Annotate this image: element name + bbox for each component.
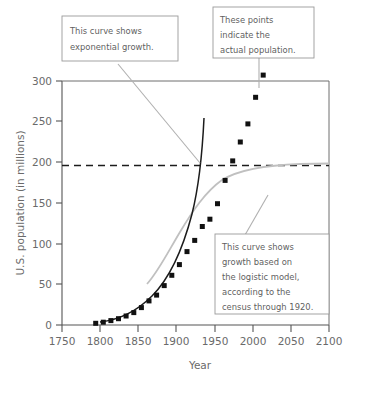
exponential-callout-line-2: exponential growth. xyxy=(70,42,154,52)
y-tick-label-250: 250 xyxy=(32,115,52,127)
y-tick-label-150: 150 xyxy=(32,197,52,209)
y-tick-label-50: 50 xyxy=(39,278,52,290)
data-point xyxy=(207,217,212,222)
data-point xyxy=(253,95,258,100)
data-point xyxy=(245,121,250,126)
data-point xyxy=(223,178,228,183)
data-point xyxy=(162,283,167,288)
logistic-callout-line-5: census through 1920. xyxy=(222,302,313,312)
points-callout-line-3: actual population. xyxy=(220,45,296,55)
exponential-callout-line-1: This curve shows xyxy=(69,26,142,36)
data-point xyxy=(238,140,243,145)
x-tick-label-2100: 2100 xyxy=(316,335,343,347)
data-point xyxy=(200,224,205,229)
points-callout-line-2: indicate the xyxy=(220,30,270,40)
data-point xyxy=(116,316,121,321)
x-tick-label-1950: 1950 xyxy=(202,335,229,347)
x-tick-label-1850: 1850 xyxy=(125,335,152,347)
data-point xyxy=(139,305,144,310)
data-point xyxy=(230,158,235,163)
x-tick-label-1900: 1900 xyxy=(163,335,190,347)
x-tick-label-1750: 1750 xyxy=(49,335,76,347)
data-point xyxy=(177,262,182,267)
exponential-callout-box xyxy=(62,16,178,61)
y-tick-label-300: 300 xyxy=(32,75,52,87)
data-point xyxy=(261,73,266,78)
chart-canvas: 300 250 200 150 100 50 0 1750 1800 1850 … xyxy=(0,0,373,396)
exponential-leader-line xyxy=(118,64,200,163)
y-axis-title: U.S. population (in millions) xyxy=(14,130,26,275)
x-tick-label-1800: 1800 xyxy=(87,335,114,347)
data-point xyxy=(215,201,220,206)
y-tick-label-100: 100 xyxy=(32,238,52,250)
y-tick-label-0: 0 xyxy=(45,319,52,331)
x-tick-label-2050: 2050 xyxy=(278,335,305,347)
logistic-callout-line-2: growth based on xyxy=(222,257,292,267)
data-point xyxy=(154,293,159,298)
data-point xyxy=(93,321,98,326)
points-callout: These points indicate the actual populat… xyxy=(213,7,314,58)
data-point xyxy=(185,249,190,254)
data-point xyxy=(192,238,197,243)
data-point xyxy=(101,320,106,325)
logistic-callout-line-1: This curve shows xyxy=(221,242,294,252)
data-point xyxy=(108,318,113,323)
x-axis-ticks: 1750 1800 1850 1900 1950 2000 2050 2100 xyxy=(49,325,343,347)
data-point xyxy=(147,298,152,303)
population-growth-figure: 300 250 200 150 100 50 0 1750 1800 1850 … xyxy=(0,0,373,396)
data-point xyxy=(169,273,174,278)
data-point xyxy=(124,314,129,319)
logistic-callout-line-4: according to the xyxy=(222,287,291,297)
x-axis-title: Year xyxy=(188,359,212,371)
logistic-callout-line-3: the logistic model, xyxy=(222,272,299,282)
logistic-callout: This curve shows growth based on the log… xyxy=(215,234,329,314)
y-axis-ticks: 300 250 200 150 100 50 0 xyxy=(32,75,62,331)
points-callout-line-1: These points xyxy=(219,15,273,25)
y-tick-label-200: 200 xyxy=(32,156,52,168)
logistic-leader-line xyxy=(245,195,268,235)
x-tick-label-2000: 2000 xyxy=(240,335,267,347)
data-point xyxy=(131,310,136,315)
exponential-callout: This curve shows exponential growth. xyxy=(62,16,178,61)
